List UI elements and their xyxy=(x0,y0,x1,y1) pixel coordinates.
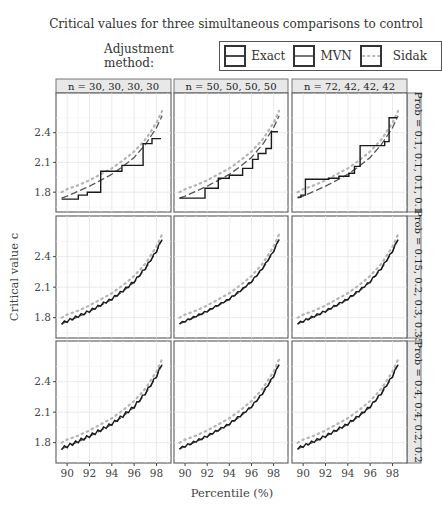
x-tick-label: 90 xyxy=(60,467,73,479)
y-tick-label: 1.8 xyxy=(34,436,51,448)
panel-r2-c1 xyxy=(174,341,288,463)
y-tick-label: 2.1 xyxy=(34,281,51,293)
panel-r1-c0 xyxy=(56,216,171,338)
x-tick-label: 94 xyxy=(341,467,355,479)
x-tick-label: 94 xyxy=(223,467,237,479)
faceted-chart: n = 30, 30, 30, 30n = 50, 50, 50, 50n = … xyxy=(0,0,442,521)
x-tick-label: 92 xyxy=(83,467,96,479)
y-tick-label: 1.8 xyxy=(34,186,51,198)
x-tick-label: 90 xyxy=(178,467,191,479)
x-tick-label: 90 xyxy=(296,467,309,479)
x-tick-label: 96 xyxy=(245,467,259,479)
panel-r1-c1 xyxy=(174,216,288,338)
panel-r2-c0 xyxy=(56,341,171,463)
y-tick-label: 2.4 xyxy=(34,250,51,262)
y-tick-label: 2.4 xyxy=(34,126,51,138)
x-tick-label: 98 xyxy=(267,467,280,479)
y-axis-title: Critical value c xyxy=(7,233,21,321)
panel-r0-c0 xyxy=(56,93,171,212)
x-tick-label: 92 xyxy=(201,467,214,479)
panel-r0-c1 xyxy=(174,93,288,212)
y-tick-label: 2.1 xyxy=(34,406,51,418)
column-strip-label: n = 30, 30, 30, 30 xyxy=(68,81,159,92)
row-strip-label: Prob = 0.1, 0.1, 0.1, 0.1 xyxy=(413,92,424,213)
row-strip-label: Prob = 0.15, 0.2, 0.3, 0.35 xyxy=(413,210,424,344)
y-tick-label: 2.1 xyxy=(34,156,51,168)
x-tick-label: 98 xyxy=(150,467,163,479)
x-tick-label: 98 xyxy=(386,467,399,479)
column-strip-label: n = 50, 50, 50, 50 xyxy=(185,81,276,92)
panel-r2-c2 xyxy=(292,341,407,463)
x-tick-label: 96 xyxy=(127,467,141,479)
panel-r0-c2 xyxy=(292,93,407,212)
x-tick-label: 94 xyxy=(105,467,119,479)
x-tick-label: 96 xyxy=(363,467,377,479)
x-axis-title: Percentile (%) xyxy=(191,486,274,500)
column-strip-label: n = 72, 42, 42, 42 xyxy=(304,81,395,92)
panel-r1-c2 xyxy=(292,216,407,338)
y-tick-label: 2.4 xyxy=(34,375,51,387)
y-tick-label: 1.8 xyxy=(34,311,51,323)
x-tick-label: 92 xyxy=(319,467,332,479)
row-strip-label: Prob = 0.4, 0.4, 0.2, 0.2 xyxy=(413,341,424,462)
